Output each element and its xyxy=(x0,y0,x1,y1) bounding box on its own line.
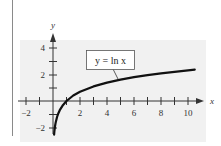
x-axis-label: x xyxy=(209,96,214,106)
x-tick-label: 6 xyxy=(132,108,137,118)
y-axis-label: y xyxy=(50,20,55,30)
y-tick-label: −2 xyxy=(35,123,45,133)
y-tick-label: 2 xyxy=(41,70,46,80)
x-tick-label: 8 xyxy=(159,108,164,118)
x-tick-label: 10 xyxy=(184,108,194,118)
y-axis-arrow-icon xyxy=(50,33,56,42)
x-tick-label: 2 xyxy=(78,108,83,118)
ln-graph: −2 2 4 6 8 10 x 4 2 −2 y y = ln x xyxy=(0,0,221,146)
curve-label: y = ln x xyxy=(95,55,126,66)
x-tick-label: −2 xyxy=(21,108,31,118)
y-tick-label: 4 xyxy=(41,43,46,53)
x-tick-label: 4 xyxy=(105,108,110,118)
